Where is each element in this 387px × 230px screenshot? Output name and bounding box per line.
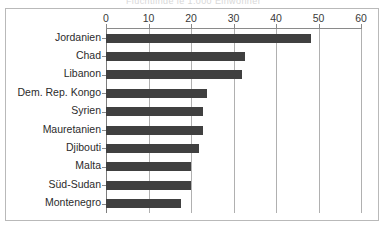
bars-layer: JordanienChadLibanonDem. Rep. KongoSyrie… [106,29,361,213]
bar-row: Montenegro [106,195,361,213]
bar [106,107,203,116]
bar-row: Süd-Sudan [106,176,361,194]
bar-row: Mauretanien [106,121,361,139]
category-label: Dem. Rep. Kongo [18,88,101,97]
x-tick-label: 30 [214,12,254,24]
bar [106,199,181,208]
category-label: Syrien [71,106,101,115]
bar [106,126,203,135]
x-tick-label: 60 [341,12,381,24]
plot-area: JordanienChadLibanonDem. Rep. KongoSyrie… [106,29,361,213]
x-tick-label: 20 [171,12,211,24]
x-tick-label: 40 [256,12,296,24]
category-label: Chad [76,51,101,60]
bar-row: Syrien [106,103,361,121]
bar [106,162,191,171]
bar [106,34,311,43]
bar-row: Djibouti [106,139,361,157]
bar [106,144,199,153]
bar [106,181,191,190]
category-label: Montenegro [45,198,101,207]
bar [106,70,242,79]
bar [106,52,245,61]
category-label: Jordanien [55,33,101,42]
category-label: Süd-Sudan [48,180,101,189]
x-tick-label: 50 [299,12,339,24]
bar-row: Malta [106,158,361,176]
bar [106,89,207,98]
bar-row: Libanon [106,66,361,84]
chart-plot-frame: 0102030405060 JordanienChadLibanonDem. R… [5,8,379,221]
category-label: Djibouti [66,143,101,152]
category-label: Mauretanien [43,125,101,134]
bar-chart-figure: Flüchtlinge je 1.000 Einwohner 010203040… [0,0,387,230]
bar-row: Chad [106,47,361,65]
x-tick-label: 0 [86,12,126,24]
x-tick-label: 10 [129,12,169,24]
category-label: Libanon [64,69,101,78]
bar-row: Dem. Rep. Kongo [106,84,361,102]
category-label: Malta [75,161,101,170]
bar-row: Jordanien [106,29,361,47]
gridline-60 [361,29,362,213]
clipped-header-text: Flüchtlinge je 1.000 Einwohner [0,0,387,4]
